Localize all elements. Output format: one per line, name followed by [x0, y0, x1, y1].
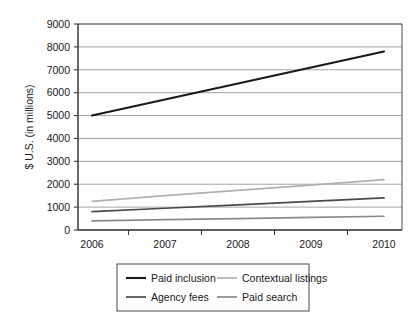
- y-tick-label: 7000: [47, 64, 71, 76]
- chart-legend: Paid inclusionContextual listingsAgency …: [117, 264, 327, 311]
- y-tick-label: 0: [64, 224, 70, 236]
- y-axis-title-text: $ U.S. (in millions): [23, 84, 35, 169]
- line-chart: 0100020003000400050006000700080009000 20…: [0, 0, 420, 321]
- x-tick-label: 2006: [80, 238, 104, 250]
- y-tick-label: 5000: [47, 109, 71, 121]
- y-tick-label: 4000: [47, 132, 71, 144]
- x-tick-label: 2009: [299, 238, 323, 250]
- x-tick-label: 2007: [153, 238, 177, 250]
- y-tick-label: 6000: [47, 86, 71, 98]
- legend-label: Agency fees: [151, 291, 209, 303]
- x-tick-label: 2008: [226, 238, 250, 250]
- chart-canvas: 0100020003000400050006000700080009000 20…: [0, 0, 420, 321]
- y-axis-title: $ U.S. (in millions): [23, 84, 35, 169]
- legend-label: Paid inclusion: [151, 272, 216, 284]
- y-tick-label: 8000: [47, 41, 71, 53]
- y-tick-label: 9000: [47, 18, 71, 30]
- legend-label: Contextual listings: [242, 272, 327, 284]
- y-tick-label: 2000: [47, 178, 71, 190]
- legend-label: Paid search: [242, 291, 298, 303]
- y-tick-label: 3000: [47, 155, 71, 167]
- y-tick-label: 1000: [47, 201, 71, 213]
- x-tick-label: 2010: [372, 238, 396, 250]
